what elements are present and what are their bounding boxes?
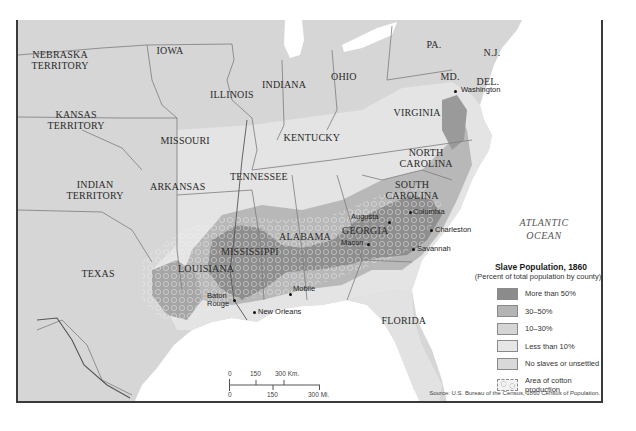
legend-swatch (497, 358, 518, 370)
state-label-nebraska: NEBRASKA TERRITORY (32, 49, 89, 71)
state-label-iowa: IOWA (157, 45, 184, 56)
state-label-virginia: VIRGINIA (394, 107, 441, 118)
state-label-illinois: ILLINOIS (210, 89, 254, 100)
legend-item: No slaves or unsettled (497, 355, 602, 373)
legend-items: More than 50%30–50%10–30%Less than 10%No… (480, 285, 602, 394)
legend-item: 30–50% (497, 303, 602, 321)
legend-subtitle: (Percent of total population by county) (468, 272, 603, 281)
city-dot-icon (289, 293, 292, 296)
state-label-kentucky: KENTUCKY (284, 132, 341, 143)
scale-mi-300: 300 Mi. (308, 391, 329, 398)
state-label-ohio: OHIO (331, 71, 357, 82)
state-label-texas: TEXAS (82, 268, 115, 279)
state-label-arkansas: ARKANSAS (150, 181, 206, 192)
state-label-indiana: INDIANA (262, 79, 306, 90)
city-dot-icon (409, 211, 412, 214)
city-dot-icon (412, 248, 415, 251)
city-dot-icon (253, 311, 256, 314)
scale-mi-150: 150 (267, 391, 278, 398)
legend-item-label: 30–50% (525, 307, 553, 316)
state-label-tennessee: TENNESSEE (230, 171, 288, 182)
state-label-mississippi: MISSISSIPPI (221, 246, 279, 257)
city-label: Augusta (351, 213, 379, 221)
legend-item-label: No slaves or unsettled (525, 359, 599, 368)
scale-km-0: 0 (228, 370, 232, 377)
legend-item-label: More than 50% (525, 289, 576, 298)
state-label-nj: N.J. (484, 47, 501, 58)
state-label-louisiana: LOUISIANA (178, 263, 234, 274)
legend-swatch (497, 340, 518, 352)
state-label-missouri: MISSOURI (161, 135, 210, 146)
legend: Slave Population, 1860 (Percent of total… (480, 262, 602, 394)
state-label-north_carolina: NORTH CAROLINA (400, 147, 453, 169)
scale-km-150: 150 (250, 370, 261, 377)
legend-item-label: Less than 10% (525, 342, 575, 351)
city-label: Columbia (413, 208, 445, 216)
legend-item: Less than 10% (497, 338, 602, 356)
state-label-georgia: GEORGIA (342, 225, 388, 236)
scale-km-300: 300 Km. (275, 370, 299, 377)
legend-item: More than 50% (497, 285, 602, 303)
scale-bar: 0 150 300 Km. 0 150 300 Mi. (228, 370, 348, 400)
source-note: Source: U.S. Bureau of the Census, 1860 … (420, 390, 600, 396)
city-label: Mobile (293, 285, 315, 293)
city-dot-icon (430, 229, 433, 232)
city-label: Charleston (435, 226, 471, 234)
legend-item-label: 10–30% (525, 324, 553, 333)
state-label-pa: PA. (427, 39, 442, 50)
legend-swatch (497, 288, 518, 300)
city-dot-icon (367, 243, 370, 246)
city-label: Macon (341, 239, 364, 247)
ocean-label: ATLANTIC OCEAN (504, 216, 584, 242)
legend-item: 10–30% (497, 320, 602, 338)
city-dot-icon (388, 221, 391, 224)
scale-line (229, 378, 324, 392)
map-frame: NEBRASKA TERRITORYIOWAKANSAS TERRITORYIL… (16, 20, 603, 403)
state-label-alabama: ALABAMA (279, 231, 331, 242)
city-label: Washington (461, 86, 500, 94)
legend-swatch (497, 305, 518, 317)
city-label: New Orleans (258, 308, 301, 316)
legend-title: Slave Population, 1860 (480, 262, 602, 272)
city-label: Savannah (417, 245, 451, 253)
state-label-indian: INDIAN TERRITORY (67, 179, 124, 201)
city-label: Baton Rouge (207, 292, 229, 308)
state-label-kansas: KANSAS TERRITORY (48, 109, 105, 131)
state-label-md: MD. (441, 71, 460, 82)
legend-swatch (497, 323, 518, 335)
state-label-florida: FLORIDA (382, 315, 427, 326)
state-label-south_carolina: SOUTH CAROLINA (386, 179, 439, 201)
city-dot-icon (454, 90, 457, 93)
city-dot-icon (233, 299, 236, 302)
scale-mi-0: 0 (228, 391, 232, 398)
